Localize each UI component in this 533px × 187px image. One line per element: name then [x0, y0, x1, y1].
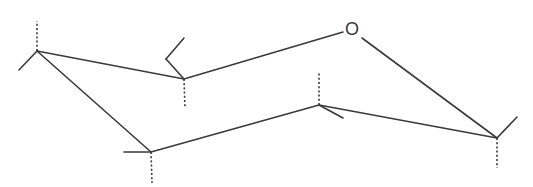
hashed-bonds — [37, 21, 497, 183]
ring-bond-2 — [362, 38, 497, 138]
substituent-bonds — [19, 38, 517, 152]
ring-bonds — [37, 32, 497, 152]
atom-labels: O — [345, 19, 359, 39]
hashed-bond-1 — [184, 79, 185, 108]
ring-bond-3 — [319, 105, 497, 138]
chair-conformation-diagram: O — [0, 0, 533, 187]
ring-bond-1 — [184, 32, 343, 79]
hashed-bond-2 — [151, 152, 152, 183]
ring-bond-4 — [151, 105, 319, 152]
ring-bond-5 — [37, 51, 151, 152]
oxygen-atom-label: O — [345, 19, 359, 39]
substituent-bond-0 — [19, 51, 37, 70]
ring-bond-0 — [37, 51, 184, 79]
substituent-bond-2 — [166, 38, 184, 59]
substituent-bond-5 — [497, 117, 517, 138]
